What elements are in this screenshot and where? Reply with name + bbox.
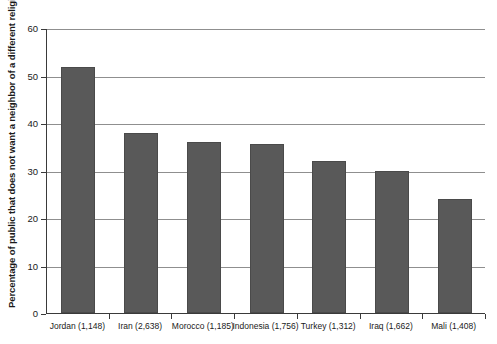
plot-area <box>46 29 485 314</box>
y-tick-label-60: 60 <box>8 23 38 34</box>
bar <box>61 67 95 313</box>
x-axis-label: Turkey (1,312) <box>301 321 356 331</box>
x-tick-mark <box>297 314 298 319</box>
y-tick-label-0: 0 <box>8 308 38 319</box>
x-axis-label: Jordan (1,148) <box>50 321 105 331</box>
x-tick-mark <box>109 314 110 319</box>
x-tick-mark <box>171 314 172 319</box>
x-axis-label: Mali (1,408) <box>431 321 476 331</box>
bar-chart: Percentage of public that does not want … <box>0 0 497 344</box>
x-tick-mark <box>485 314 486 319</box>
x-axis-label: Indonesia (1,756) <box>232 321 298 331</box>
x-axis-label: Iran (2,638) <box>118 321 162 331</box>
y-tick-label-50: 50 <box>8 71 38 82</box>
x-axis-label: Iraq (1,662) <box>369 321 413 331</box>
y-tick-label-40: 40 <box>8 118 38 129</box>
y-tick-mark-0 <box>41 314 46 315</box>
gridline-40 <box>47 124 485 125</box>
bar <box>124 133 158 313</box>
gridline-60 <box>47 29 485 30</box>
x-tick-mark <box>234 314 235 319</box>
bar <box>250 144 284 313</box>
gridline-50 <box>47 77 485 78</box>
x-axis-label: Morocco (1,185) <box>172 321 234 331</box>
y-tick-label-20: 20 <box>8 213 38 224</box>
y-tick-label-10: 10 <box>8 261 38 272</box>
bar <box>375 171 409 314</box>
x-tick-mark <box>360 314 361 319</box>
bar <box>312 161 346 313</box>
bar <box>438 199 472 313</box>
bar <box>187 142 221 313</box>
x-tick-mark <box>422 314 423 319</box>
y-tick-label-30: 30 <box>8 166 38 177</box>
